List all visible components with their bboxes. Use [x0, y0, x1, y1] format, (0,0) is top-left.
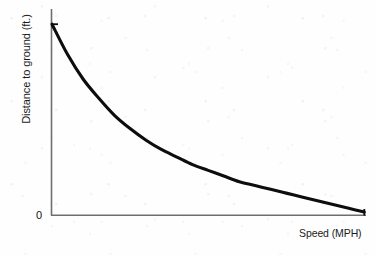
origin-tick-label: 0	[36, 209, 42, 221]
plot-area	[0, 0, 375, 257]
y-axis-title: Distance to ground (ft.)	[20, 0, 32, 149]
chart-figure: Distance to ground (ft.) Speed (MPH) 0	[0, 0, 375, 257]
x-axis-title: Speed (MPH)	[299, 227, 362, 239]
decay-curve	[52, 24, 364, 212]
